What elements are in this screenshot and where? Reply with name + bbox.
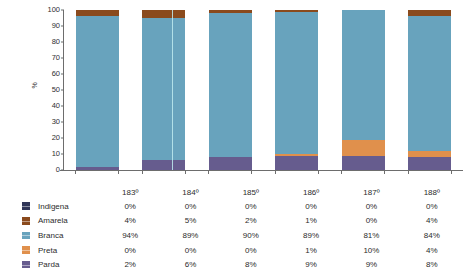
legend-swatch-cell xyxy=(22,199,38,214)
table-value-cell: 9% xyxy=(281,257,341,272)
table-row: Branca94%89%90%89%81%84% xyxy=(22,228,462,243)
x-tick-mark xyxy=(142,170,143,174)
table-value-cell: 89% xyxy=(281,228,341,243)
y-tick-label: 80 xyxy=(52,38,60,46)
legend-color-swatch-icon xyxy=(22,261,30,269)
y-axis-tick-labels: 0102030405060708090100 xyxy=(38,10,60,170)
table-corner-label xyxy=(38,186,100,199)
bar-segment-branca[interactable] xyxy=(408,16,451,150)
stacked-bar[interactable] xyxy=(408,10,451,170)
stacked-bar[interactable] xyxy=(275,10,318,170)
table-value-cell: 2% xyxy=(100,257,160,272)
table-corner-cell xyxy=(22,186,38,199)
table-row: Indigena0%0%0%0%0%0% xyxy=(22,199,462,214)
table-value-cell: 1% xyxy=(281,214,341,229)
y-axis-title: % xyxy=(31,82,38,88)
y-tick-mark xyxy=(61,42,64,43)
table-value-cell: 0% xyxy=(160,243,220,258)
bar-segment-parda[interactable] xyxy=(275,156,318,170)
table-value-cell: 81% xyxy=(341,228,401,243)
chart-figure: % 0102030405060708090100 183º184º185º186… xyxy=(0,0,472,276)
table-row: Preta0%0%0%1%10%4% xyxy=(22,243,462,258)
legend-series-label: Indigena xyxy=(38,199,100,214)
legend-series-label: Preta xyxy=(38,243,100,258)
legend-swatch-cell xyxy=(22,257,38,272)
y-tick-mark xyxy=(61,170,64,171)
y-tick-mark xyxy=(61,106,64,107)
bar-segment-branca[interactable] xyxy=(342,10,385,140)
table-value-cell: 0% xyxy=(341,199,401,214)
stacked-bar[interactable] xyxy=(209,10,252,170)
table-value-cell: 0% xyxy=(221,243,281,258)
y-tick-mark xyxy=(61,26,64,27)
y-tick-label: 100 xyxy=(47,6,60,14)
table-value-cell: 4% xyxy=(402,214,462,229)
table-row: Parda2%6%8%9%9%8% xyxy=(22,257,462,272)
table-value-cell: 90% xyxy=(221,228,281,243)
legend-swatch-cell xyxy=(22,228,38,243)
bar-segment-parda[interactable] xyxy=(142,160,185,170)
bar-segment-parda[interactable] xyxy=(408,157,451,170)
table-value-cell: 89% xyxy=(160,228,220,243)
x-tick-mark xyxy=(118,170,119,174)
legend-series-label: Parda xyxy=(38,257,100,272)
plot-area: % 0102030405060708090100 xyxy=(0,0,472,186)
x-tick-mark xyxy=(251,170,252,174)
table-column-header: 185º xyxy=(221,186,281,199)
table-value-cell: 0% xyxy=(341,214,401,229)
bar-segment-parda[interactable] xyxy=(209,157,252,170)
table-column-header: 188º xyxy=(402,186,462,199)
legend-swatch-cell xyxy=(22,243,38,258)
table-value-cell: 84% xyxy=(402,228,462,243)
x-tick-mark xyxy=(451,170,452,174)
y-tick-label: 10 xyxy=(52,150,60,158)
table-value-cell: 0% xyxy=(402,199,462,214)
y-tick-mark xyxy=(61,10,64,11)
x-tick-mark xyxy=(208,170,209,174)
legend-color-swatch-icon xyxy=(22,232,30,240)
stacked-bar[interactable] xyxy=(142,10,185,170)
table-value-cell: 0% xyxy=(221,199,281,214)
table-value-cell: 10% xyxy=(341,243,401,258)
table-column-header: 187º xyxy=(341,186,401,199)
y-tick-mark xyxy=(61,122,64,123)
table-value-cell: 94% xyxy=(100,228,160,243)
x-tick-mark xyxy=(384,170,385,174)
y-tick-mark xyxy=(61,90,64,91)
y-tick-mark xyxy=(61,154,64,155)
table-column-header: 186º xyxy=(281,186,341,199)
table-value-cell: 0% xyxy=(281,199,341,214)
y-tick-label: 60 xyxy=(52,70,60,78)
y-tick-mark xyxy=(61,74,64,75)
table-value-cell: 6% xyxy=(160,257,220,272)
y-tick-label: 20 xyxy=(52,134,60,142)
table-value-cell: 8% xyxy=(402,257,462,272)
bar-segment-branca[interactable] xyxy=(76,16,119,166)
legend-color-swatch-icon xyxy=(22,202,30,210)
table-value-cell: 5% xyxy=(160,214,220,229)
table-header-row: 183º184º185º186º187º188º xyxy=(22,186,462,199)
table-column-header: 183º xyxy=(100,186,160,199)
x-tick-mark xyxy=(341,170,342,174)
bar-segment-parda[interactable] xyxy=(342,156,385,170)
table-value-cell: 9% xyxy=(341,257,401,272)
table-value-cell: 4% xyxy=(402,243,462,258)
bar-segment-branca[interactable] xyxy=(275,12,318,154)
stacked-bar[interactable] xyxy=(342,10,385,170)
y-tick-label: 90 xyxy=(52,22,60,30)
x-tick-mark xyxy=(318,170,319,174)
plot-canvas xyxy=(64,10,463,170)
bar-segment-branca[interactable] xyxy=(142,18,185,160)
x-tick-mark xyxy=(275,170,276,174)
table-value-cell: 1% xyxy=(281,243,341,258)
data-table: 183º184º185º186º187º188º Indigena0%0%0%0… xyxy=(22,186,462,272)
bar-segment-branca[interactable] xyxy=(209,13,252,157)
table-value-cell: 8% xyxy=(221,257,281,272)
bar-segment-preta[interactable] xyxy=(342,140,385,156)
bar-segment-amarela[interactable] xyxy=(142,10,185,18)
bar-segment-parda[interactable] xyxy=(76,167,119,170)
legend-color-swatch-icon xyxy=(22,246,30,254)
table-value-cell: 2% xyxy=(221,214,281,229)
stacked-bar[interactable] xyxy=(76,10,119,170)
legend-swatch-cell xyxy=(22,214,38,229)
